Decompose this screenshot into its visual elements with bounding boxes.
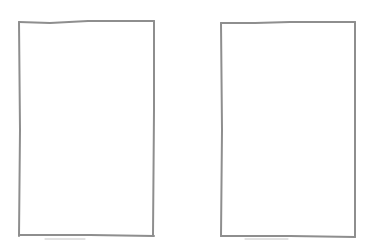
right-frame — [221, 22, 355, 239]
left-frame-left-edge — [19, 22, 20, 236]
left-frame — [19, 21, 154, 239]
left-frame-bottom-edge — [19, 235, 154, 236]
right-frame-bottom-edge — [221, 236, 355, 237]
left-frame-top-edge — [19, 21, 154, 23]
right-frame-left-edge — [221, 23, 222, 236]
left-frame-right-edge — [153, 21, 154, 236]
sketch-canvas — [0, 0, 373, 252]
right-frame-top-edge — [221, 22, 355, 23]
